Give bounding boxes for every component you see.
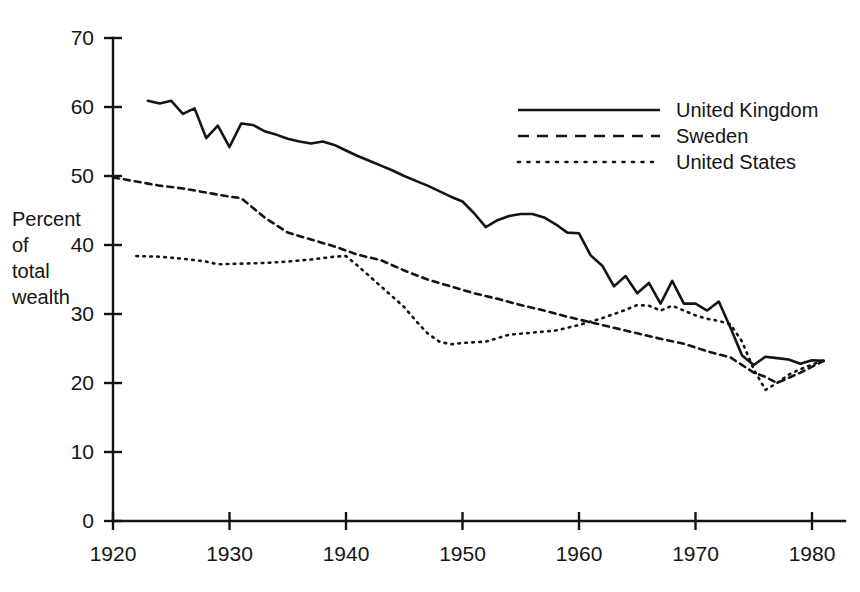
x-tick-label-1960: 1960 bbox=[556, 542, 603, 565]
y-tick-label-70: 70 bbox=[71, 26, 94, 49]
x-tick-label-1920: 1920 bbox=[90, 542, 137, 565]
y-tick-label-40: 40 bbox=[71, 233, 94, 256]
y-axis-title-line-1: Percent bbox=[12, 208, 81, 230]
y-tick-label-50: 50 bbox=[71, 164, 94, 187]
y-tick-label-30: 30 bbox=[71, 302, 94, 325]
x-tick-label-1950: 1950 bbox=[439, 542, 486, 565]
y-axis-title-line-3: total bbox=[12, 260, 50, 282]
x-tick-label-1940: 1940 bbox=[323, 542, 370, 565]
chart-background bbox=[0, 0, 860, 592]
y-axis-title-line-4: wealth bbox=[11, 286, 70, 308]
y-tick-label-20: 20 bbox=[71, 371, 94, 394]
wealth-distribution-line-chart: 010203040506070 192019301940195019601970… bbox=[0, 0, 860, 592]
y-tick-label-10: 10 bbox=[71, 440, 94, 463]
legend-label-sweden: Sweden bbox=[676, 125, 748, 147]
y-tick-label-60: 60 bbox=[71, 95, 94, 118]
x-tick-label-1980: 1980 bbox=[789, 542, 836, 565]
legend-label-united-kingdom: United Kingdom bbox=[676, 99, 818, 121]
chart-container: 010203040506070 192019301940195019601970… bbox=[0, 0, 860, 592]
y-axis-title-line-2: of bbox=[12, 234, 29, 256]
legend-label-united-states: United States bbox=[676, 151, 796, 173]
y-tick-label-0: 0 bbox=[82, 509, 94, 532]
x-tick-label-1970: 1970 bbox=[672, 542, 719, 565]
x-tick-label-1930: 1930 bbox=[206, 542, 253, 565]
